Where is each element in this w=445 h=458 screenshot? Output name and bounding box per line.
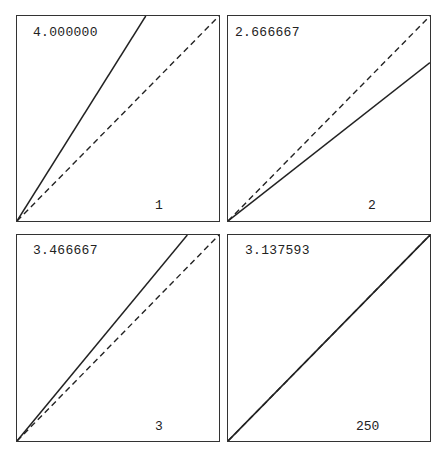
estimate-solid-line <box>228 235 430 441</box>
plot-panel-3: 3.466667 3 <box>16 234 220 442</box>
reference-dashed-line <box>17 235 219 441</box>
iteration-label: 250 <box>356 419 379 434</box>
estimate-value-label: 2.666667 <box>235 25 300 40</box>
reference-dashed-line <box>228 16 430 221</box>
plot-panel-1: 4.000000 1 <box>16 15 220 222</box>
estimate-solid-line <box>17 235 187 441</box>
estimate-solid-line <box>228 63 430 221</box>
estimate-value-label: 3.466667 <box>33 243 98 258</box>
plot-lines-4 <box>228 235 430 441</box>
iteration-label: 1 <box>155 198 163 213</box>
plot-lines-3 <box>17 235 219 441</box>
estimate-value-label: 3.137593 <box>245 243 310 258</box>
estimate-value-label: 4.000000 <box>33 25 98 40</box>
iteration-label: 2 <box>368 198 376 213</box>
reference-dashed-line <box>17 16 219 221</box>
plot-lines-1 <box>17 16 219 221</box>
plot-lines-2 <box>228 16 430 221</box>
estimate-solid-line <box>17 16 146 221</box>
iteration-label: 3 <box>155 419 163 434</box>
plot-panel-4: 3.137593 250 <box>227 234 431 442</box>
plot-panel-2: 2.666667 2 <box>227 15 431 222</box>
